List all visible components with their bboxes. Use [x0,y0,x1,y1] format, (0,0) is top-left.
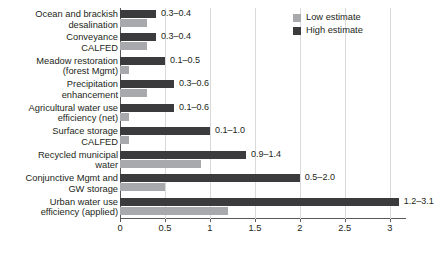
bar-value-label: 0.3–0.4 [161,8,191,18]
bar-low-estimate [120,207,228,215]
bar-low-estimate [120,89,147,97]
bar-high-estimate [120,80,174,88]
category-label: Surface storage CALFED [0,126,118,147]
chart-legend: Low estimateHigh estimate [293,11,363,37]
bar-group: 0.3–0.4 [120,33,406,54]
x-tick [120,219,121,222]
x-tick [255,219,256,222]
category-label: Conjunctive Mgmt and GW storage [0,173,118,194]
legend-label: High estimate [306,24,363,37]
category-label: Recycled municipal water [0,150,118,171]
x-tick-label: 2 [297,223,302,233]
bar-value-label: 1.2–3.1 [404,196,434,206]
bar-group: 0.9–1.4 [120,151,406,172]
x-tick-label: 3 [387,223,392,233]
bar-value-label: 0.9–1.4 [251,149,281,159]
bar-group: 0.5–2.0 [120,174,406,195]
category-axis-labels: Ocean and brackish desalinationConveyanc… [0,8,118,219]
x-tick-label: 2.5 [338,223,351,233]
bar-value-label: 0.3–0.6 [179,78,209,88]
legend-swatch-icon [293,14,301,22]
bar-high-estimate [120,127,210,135]
category-label: Conveyance CALFED [0,32,118,53]
bar-value-label: 0.5–2.0 [305,172,335,182]
legend-label: Low estimate [306,11,361,24]
bar-high-estimate [120,57,165,65]
bar-group: 0.1–1.0 [120,127,406,148]
bar-high-estimate [120,174,300,182]
bar-low-estimate [120,19,147,27]
bar-high-estimate [120,151,246,159]
bar-high-estimate [120,10,156,18]
legend-item-low: Low estimate [293,11,363,24]
bar-high-estimate [120,104,174,112]
legend-item-high: High estimate [293,24,363,37]
x-tick [390,219,391,222]
x-tick [210,219,211,222]
bar-high-estimate [120,33,156,41]
x-tick-label: 0.5 [158,223,171,233]
category-label: Agricultural water use efficiency (net) [0,103,118,124]
x-tick [165,219,166,222]
plot-area: 0.3–0.40.3–0.40.1–0.50.3–0.60.1–0.60.1–1… [120,8,406,219]
category-label: Ocean and brackish desalination [0,9,118,30]
legend-swatch-icon [293,27,301,35]
bar-low-estimate [120,113,129,121]
bar-low-estimate [120,42,147,50]
bar-group: 0.1–0.5 [120,57,406,78]
bar-group: 0.3–0.6 [120,80,406,101]
x-axis: 00.511.522.53 [120,219,406,241]
category-label: Precipitation enhancement [0,79,118,100]
category-label: Meadow restoration (forest Mgmt) [0,56,118,77]
bar-group: 0.1–0.6 [120,104,406,125]
bar-value-label: 0.3–0.4 [161,31,191,41]
bar-value-label: 0.1–0.6 [179,102,209,112]
bar-group: 1.2–3.1 [120,198,406,219]
bar-low-estimate [120,183,165,191]
bar-high-estimate [120,198,399,206]
bar-group: 0.3–0.4 [120,10,406,31]
bar-low-estimate [120,66,129,74]
bar-low-estimate [120,136,129,144]
x-tick [345,219,346,222]
category-label: Urban water use efficiency (applied) [0,197,118,218]
x-tick-label: 1 [207,223,212,233]
bar-value-label: 0.1–1.0 [215,125,245,135]
bar-value-label: 0.1–0.5 [170,55,200,65]
bar-low-estimate [120,160,201,168]
x-tick-label: 0 [117,223,122,233]
x-tick [300,219,301,222]
x-tick-label: 1.5 [248,223,261,233]
